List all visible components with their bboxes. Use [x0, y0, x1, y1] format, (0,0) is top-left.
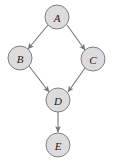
dag-diagram: A B C D E: [0, 0, 115, 166]
node-group: A B C D E: [8, 5, 105, 157]
node-b-label: B: [17, 53, 24, 65]
edge-b-to-d: [29, 66, 49, 92]
node-a-label: A: [53, 12, 61, 24]
edge-group: [28, 25, 85, 132]
node-b[interactable]: B: [8, 46, 32, 70]
node-c-label: C: [89, 54, 97, 66]
node-a[interactable]: A: [45, 5, 69, 29]
edge-a-to-c: [67, 25, 85, 50]
edge-a-to-b: [28, 25, 48, 49]
node-e[interactable]: E: [46, 133, 70, 157]
node-d-label: D: [53, 95, 62, 107]
node-e-label: E: [54, 140, 62, 152]
node-c[interactable]: C: [81, 47, 105, 71]
node-d[interactable]: D: [46, 88, 70, 112]
edge-c-to-d: [68, 68, 85, 92]
